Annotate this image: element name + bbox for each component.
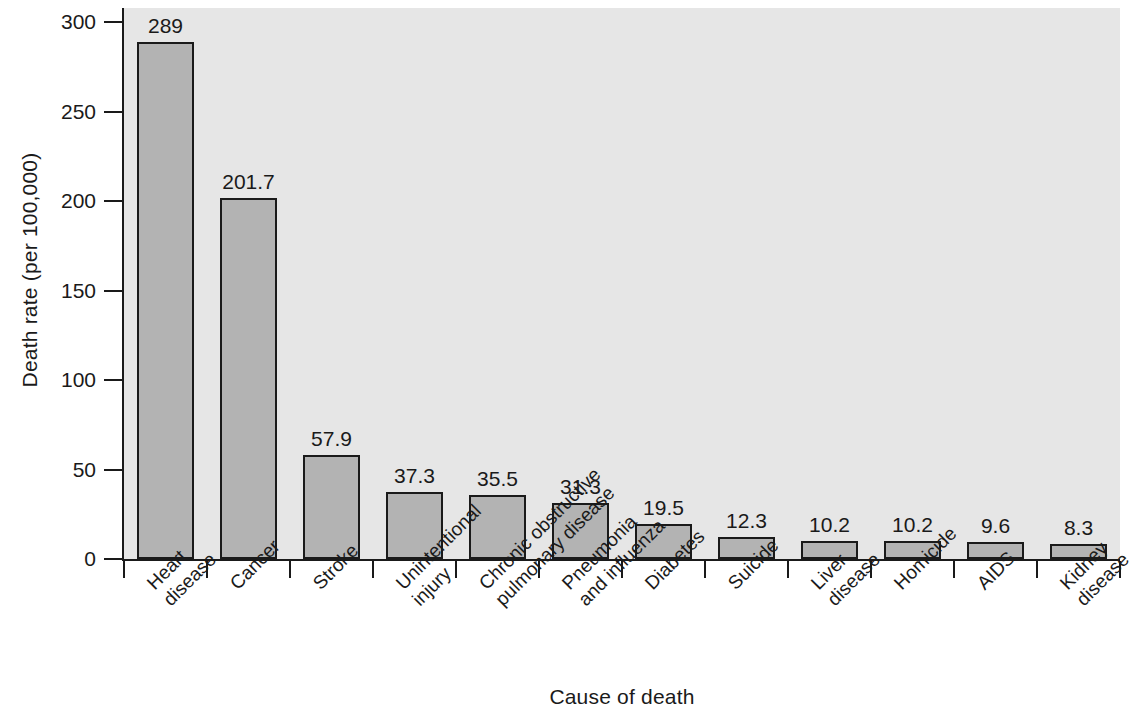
- bar-chart: Death rate (per 100,000) 050100150200250…: [0, 0, 1136, 723]
- y-axis-tick-label: 100: [26, 369, 96, 390]
- y-axis-tick-label: 0: [26, 548, 96, 569]
- y-axis-tick-label: 200: [26, 190, 96, 211]
- y-axis-tick-label: 250: [26, 101, 96, 122]
- x-axis-tick: [787, 561, 789, 578]
- bar-value-label: 8.3: [1019, 517, 1136, 538]
- y-axis-tick-label: 300: [26, 11, 96, 32]
- y-axis-tick: [104, 111, 122, 113]
- y-axis-tick: [104, 469, 122, 471]
- x-axis-title: Cause of death: [124, 685, 1120, 709]
- y-axis-tick: [104, 379, 122, 381]
- y-axis-tick-label: 150: [26, 280, 96, 301]
- bar-value-label: 289: [106, 15, 226, 36]
- x-axis-tick: [704, 561, 706, 578]
- y-axis-tick-label: 50: [26, 459, 96, 480]
- bar[interactable]: [220, 198, 277, 559]
- bar-value-label: 57.9: [272, 428, 392, 449]
- y-axis-tick: [104, 290, 122, 292]
- y-axis-tick: [104, 200, 122, 202]
- x-axis-tick: [123, 561, 125, 578]
- x-axis-tick: [1036, 561, 1038, 578]
- x-axis-tick: [372, 561, 374, 578]
- bar-value-label: 201.7: [189, 171, 309, 192]
- y-axis-line: [122, 8, 124, 560]
- y-axis-tick: [104, 558, 122, 560]
- bar[interactable]: [137, 42, 194, 559]
- x-axis-tick: [953, 561, 955, 578]
- x-axis-tick: [289, 561, 291, 578]
